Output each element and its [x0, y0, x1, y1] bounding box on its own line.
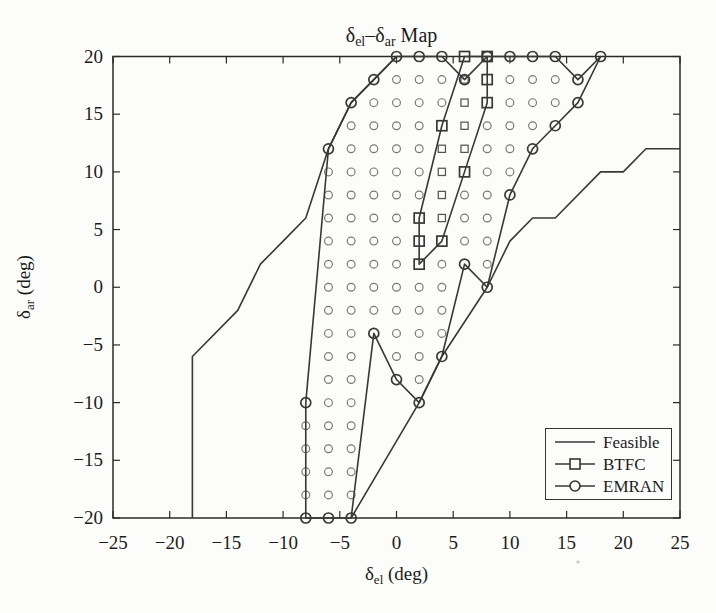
emran-point-circle	[370, 99, 378, 107]
emran-point-circle	[370, 214, 378, 222]
emran-point-circle	[551, 99, 559, 107]
emran-point-circle	[415, 99, 423, 107]
x-tick-label: −10	[268, 532, 298, 553]
emran-point-circle	[347, 122, 355, 130]
btfc-point-square	[438, 145, 445, 152]
emran-point-circle	[347, 191, 355, 199]
emran-point-circle	[347, 399, 355, 407]
emran-point-circle	[483, 122, 491, 130]
emran-point-circle	[325, 260, 333, 268]
scan-speck	[576, 560, 579, 563]
emran-point-circle	[347, 214, 355, 222]
emran-point-circle	[347, 237, 355, 245]
emran-point-circle	[438, 76, 446, 84]
emran-point-circle	[325, 330, 333, 338]
emran-point-circle	[325, 422, 333, 430]
emran-point-circle	[325, 399, 333, 407]
emran-point-circle	[325, 353, 333, 361]
emran-point-circle	[393, 260, 401, 268]
x-tick-label: −5	[330, 532, 350, 553]
legend-entry-feasible: Feasible	[552, 431, 665, 453]
emran-point-circle	[325, 191, 333, 199]
emran-point-circle	[415, 122, 423, 130]
emran-point-circle	[393, 330, 401, 338]
emran-point-circle	[393, 306, 401, 314]
legend-entry-btfc: BTFC	[552, 453, 665, 475]
emran-point-circle	[415, 330, 423, 338]
x-axis-label: δel (deg)	[365, 563, 428, 587]
emran-point-circle	[483, 237, 491, 245]
emran-point-circle	[347, 283, 355, 291]
emran-point-circle	[393, 168, 401, 176]
x-tick-label: 5	[448, 532, 458, 553]
emran-point-circle	[415, 145, 423, 153]
y-axis-label: δar (deg)	[13, 255, 37, 319]
emran-point-circle	[438, 306, 446, 314]
legend-box: Feasible BTFC EMRAN	[545, 428, 672, 500]
btfc-boundary-polygon	[419, 57, 487, 265]
emran-point-circle	[506, 76, 514, 84]
y-tick-label: −5	[83, 334, 103, 355]
btfc-point-square	[438, 168, 445, 175]
legend-label-btfc: BTFC	[603, 456, 646, 473]
emran-point-circle	[529, 76, 537, 84]
emran-point-circle	[506, 122, 514, 130]
y-tick-label: 5	[94, 219, 104, 240]
emran-point-circle	[483, 191, 491, 199]
y-tick-label: −10	[73, 392, 103, 413]
emran-point-circle	[438, 99, 446, 107]
emran-point-circle	[415, 168, 423, 176]
emran-point-circle	[483, 260, 491, 268]
btfc-sample-point-squares	[438, 76, 468, 222]
emran-point-circle	[415, 353, 423, 361]
emran-point-circle	[325, 445, 333, 453]
x-tick-label: −15	[212, 532, 242, 553]
emran-point-circle	[438, 283, 446, 291]
y-tick-label: 0	[94, 276, 104, 297]
emran-point-circle	[370, 122, 378, 130]
emran-point-circle	[506, 99, 514, 107]
emran-point-circle	[347, 445, 355, 453]
emran-point-circle	[347, 353, 355, 361]
emran-point-circle	[325, 376, 333, 384]
emran-point-circle	[415, 191, 423, 199]
btfc-point-square	[461, 145, 468, 152]
legend-label-feasible: Feasible	[603, 434, 660, 451]
btfc-square-marker-sample	[552, 456, 598, 472]
emran-point-circle	[393, 122, 401, 130]
emran-point-circle	[529, 122, 537, 130]
emran-point-circle	[415, 376, 423, 384]
delta-el-delta-ar-map-chart: −25−20−15−10−50510152025−20−15−10−505101…	[0, 0, 716, 613]
emran-point-circle	[370, 145, 378, 153]
emran-point-circle	[347, 330, 355, 338]
btfc-point-square	[438, 191, 445, 198]
emran-point-circle	[325, 283, 333, 291]
x-tick-label: 0	[392, 532, 402, 553]
emran-point-circle	[461, 191, 469, 199]
emran-point-circle	[393, 145, 401, 153]
x-tick-label: −25	[98, 532, 128, 553]
emran-point-circle	[483, 145, 491, 153]
emran-point-circle	[393, 99, 401, 107]
feasible-line-sample	[552, 434, 598, 450]
emran-point-circle	[393, 76, 401, 84]
x-tick-label: 15	[557, 532, 576, 553]
emran-point-circle	[483, 214, 491, 222]
y-tick-label: −15	[73, 449, 103, 470]
emran-point-circle	[438, 330, 446, 338]
emran-point-circle	[347, 306, 355, 314]
emran-point-circle	[393, 237, 401, 245]
emran-point-circle	[325, 468, 333, 476]
emran-point-circle	[529, 99, 537, 107]
x-tick-label: 25	[671, 532, 690, 553]
y-tick-label: −20	[73, 507, 103, 528]
btfc-point-square	[461, 99, 468, 106]
emran-point-circle	[347, 168, 355, 176]
emran-point-circle	[393, 283, 401, 291]
legend-entry-emran: EMRAN	[552, 475, 665, 497]
emran-point-circle	[393, 214, 401, 222]
emran-sample-point-circles	[302, 76, 559, 499]
y-tick-label: 10	[84, 161, 103, 182]
btfc-point-square	[438, 214, 445, 221]
x-tick-label: −20	[155, 532, 185, 553]
